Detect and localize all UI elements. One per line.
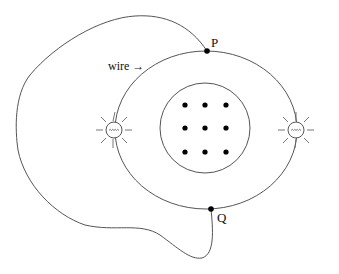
field-dots — [182, 102, 228, 154]
point-q-dot — [208, 206, 214, 212]
circuit-diagram: P Q wire → — [0, 0, 339, 274]
field-dot — [202, 102, 207, 107]
field-dot — [223, 149, 228, 154]
field-dot — [223, 125, 228, 130]
field-dot — [182, 102, 187, 107]
field-dot — [182, 125, 187, 130]
right-bulb-icon — [278, 112, 314, 148]
field-dot — [202, 125, 207, 130]
wire-label: wire → — [108, 59, 144, 73]
field-dot — [202, 149, 207, 154]
left-bulb-icon — [96, 112, 132, 148]
point-p-label: P — [211, 35, 218, 50]
point-p-dot — [204, 48, 210, 54]
point-q-label: Q — [217, 210, 227, 225]
field-dot — [223, 102, 228, 107]
field-dot — [182, 149, 187, 154]
